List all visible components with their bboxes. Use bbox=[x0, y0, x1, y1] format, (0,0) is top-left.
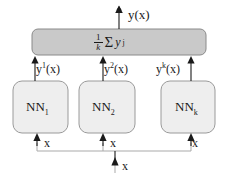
fraction-denominator: k bbox=[94, 43, 102, 52]
nn-label-1: NN1 bbox=[26, 99, 49, 117]
nn1-output-suffix: (x) bbox=[46, 62, 60, 76]
nnk-input-label: x bbox=[192, 137, 198, 149]
fraction-numerator: 1 bbox=[94, 33, 103, 42]
output-arrow-head bbox=[115, 6, 123, 13]
average-fraction: 1 k bbox=[94, 33, 103, 53]
nnk-output-label: yk(x) bbox=[156, 62, 180, 75]
nn2-output-label: y2(x) bbox=[104, 62, 128, 75]
nn-label-1-subscript: 1 bbox=[45, 108, 49, 117]
nn2-input-label: x bbox=[110, 137, 116, 149]
output-label: y(x) bbox=[128, 8, 150, 21]
nn-label-1-name: NN bbox=[26, 99, 45, 114]
nn-label-k: NNk bbox=[175, 99, 198, 117]
sum-term: y bbox=[115, 35, 120, 50]
diagram-canvas bbox=[0, 0, 231, 180]
nn2-input-arrow-head bbox=[99, 133, 106, 141]
sum-symbol: Σ bbox=[105, 34, 114, 51]
nn2-output-suffix: (x) bbox=[114, 62, 128, 76]
nnk-output-arrow-head bbox=[187, 56, 194, 64]
ensemble-diagram: y(x) 1 k Σ yj y1(x) y2(x) yk(x) NN1 NN2 … bbox=[0, 0, 231, 180]
nnk-output-suffix: (x) bbox=[166, 62, 180, 76]
nn1-input-label: x bbox=[44, 137, 50, 149]
shared-input-label: x bbox=[122, 160, 128, 172]
nn-label-k-subscript: k bbox=[194, 108, 198, 117]
nn-label-k-name: NN bbox=[175, 99, 194, 114]
average-formula: 1 k Σ yj bbox=[94, 33, 125, 53]
nn1-input-arrow-head bbox=[33, 133, 40, 141]
nn-label-2-subscript: 2 bbox=[111, 108, 115, 117]
nn-label-2: NN2 bbox=[92, 99, 115, 117]
sum-term-superscript: j bbox=[123, 38, 125, 47]
nn1-output-label: y1(x) bbox=[36, 62, 60, 75]
nn-label-2-name: NN bbox=[92, 99, 111, 114]
